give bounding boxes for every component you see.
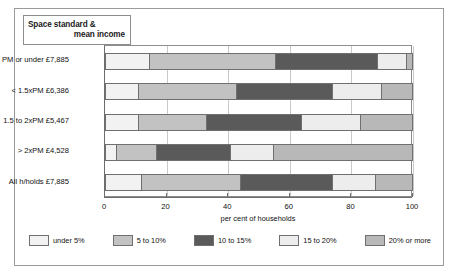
bar-segment (231, 144, 274, 161)
x-axis-tick (289, 193, 290, 197)
y-axis-label: < 1.5xPM £6,386 (0, 86, 69, 95)
bar-segment (274, 144, 413, 161)
x-axis-tick-label: 80 (346, 202, 354, 211)
plot-area (104, 45, 412, 197)
bar-segment (378, 53, 407, 70)
bar-segment (237, 83, 332, 100)
stacked-bar (105, 83, 413, 100)
legend-item[interactable]: 20% or more (365, 235, 431, 246)
bar-segment (105, 174, 142, 191)
gridline (413, 46, 414, 196)
x-axis-tick (350, 193, 351, 197)
bar-segment (105, 144, 117, 161)
bar-segment (105, 53, 150, 70)
bar-segment (105, 83, 139, 100)
stacked-bar (105, 144, 413, 161)
x-axis-tick-label: 40 (223, 202, 231, 211)
chart-title-line-1: Space standard & (24, 20, 96, 31)
legend-label: under 5% (53, 236, 85, 245)
stacked-bar (105, 114, 413, 131)
x-axis-tick-label: 20 (161, 202, 169, 211)
legend-label: 5 to 10% (137, 236, 166, 245)
y-axis-label: > 2xPM £4,528 (0, 146, 69, 155)
bar-segment (302, 114, 361, 131)
legend-label: 15 to 20% (303, 236, 336, 245)
bar-segment (139, 83, 238, 100)
bar-segment (333, 83, 382, 100)
legend-item[interactable]: under 5% (29, 235, 85, 246)
legend-item[interactable]: 10 to 15% (194, 235, 251, 246)
x-axis-tick (104, 193, 105, 197)
x-axis-tick-label: 0 (102, 202, 106, 211)
legend-swatch (29, 235, 49, 246)
legend-swatch (365, 235, 385, 246)
legend-item[interactable]: 15 to 20% (279, 235, 336, 246)
stacked-bar (105, 53, 413, 70)
legend-swatch (279, 235, 299, 246)
y-axis-label: All h/holds £7,885 (0, 177, 69, 186)
bar-segment (139, 114, 207, 131)
legend-item[interactable]: 5 to 10% (113, 235, 166, 246)
chart-legend: under 5%5 to 10%10 to 15%15 to 20%20% or… (29, 235, 431, 246)
bar-segment (241, 174, 333, 191)
x-axis-tick (166, 193, 167, 197)
bar-segment (150, 53, 276, 70)
legend-label: 10 to 15% (218, 236, 251, 245)
x-axis-tick-label: 60 (285, 202, 293, 211)
bar-segment (333, 174, 376, 191)
bar-segment (117, 144, 157, 161)
x-axis-tick-label: 100 (406, 202, 419, 211)
bar-segment (276, 53, 378, 70)
x-axis-title: per cent of households (104, 214, 412, 223)
bar-segment (407, 53, 413, 70)
y-axis-label: 1.5 to 2xPM £5,467 (0, 116, 69, 125)
bar-segment (376, 174, 413, 191)
x-axis (104, 197, 412, 198)
x-axis-tick (412, 193, 413, 197)
bar-segment (207, 114, 302, 131)
legend-swatch (113, 235, 133, 246)
stacked-bar (105, 174, 413, 191)
legend-label: 20% or more (389, 236, 431, 245)
y-axis-label: PM or under £7,885 (0, 55, 69, 64)
bar-segment (382, 83, 413, 100)
legend-swatch (194, 235, 214, 246)
bar-segment (105, 114, 139, 131)
bar-segment (157, 144, 231, 161)
bar-segment (142, 174, 241, 191)
chart-title-line-2: mean income (74, 30, 125, 41)
chart-title-box: Space standard & mean income (23, 15, 131, 45)
bar-segment (361, 114, 413, 131)
x-axis-tick (227, 193, 228, 197)
chart-figure: Space standard & mean income per cent of… (14, 8, 444, 266)
